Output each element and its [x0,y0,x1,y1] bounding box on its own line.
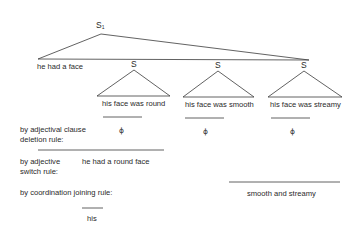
rule-adjectival-clause-deletion-line1: by adjectival clause [20,125,86,134]
rule-adjective-switch-line2: switch rule: [20,167,58,176]
deleted-marker-1: ϕ [119,126,124,135]
root-subscript: 1 [102,24,105,30]
deleted-marker-3: ϕ [290,127,295,136]
adjective-switch-result: he had a round face [82,157,150,166]
rule-coordination-joining: by coordination joining rule: [20,188,112,197]
rule-adjectival-clause-deletion-line2: deletion rule: [20,135,63,144]
embedded-sentence-1: his face was round [102,99,165,108]
coordination-result-right: smooth and streamy [247,189,316,198]
embedded-sentence-3: his face was streamy [270,100,341,109]
root-phrase: he had a face [37,62,83,71]
deleted-marker-2: ϕ [203,127,208,136]
embedded-node-2: S [215,61,221,70]
rule-adjective-switch-line1: by adjective [20,157,60,166]
embedded-sentence-2: his face was smooth [185,100,254,109]
embedded-node-1: S [131,60,137,69]
coordination-result-left: his [87,214,97,223]
root-node-label: S1 [96,21,104,32]
embedded-node-3: S [301,61,307,70]
